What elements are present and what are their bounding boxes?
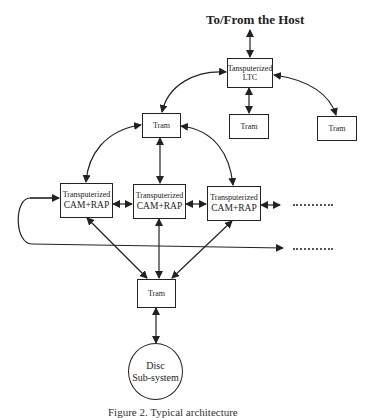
cam-node-1-line1: Transputerized — [63, 190, 111, 199]
disc-subsystem: Disc Sub-system — [128, 343, 183, 400]
cam-node-3: Transputerized CAM+RAP — [207, 186, 261, 221]
tram-right: Tram — [317, 116, 357, 141]
loop-continuation-mark — [293, 248, 333, 250]
ltc-node: Tansputerized LTC — [227, 58, 273, 88]
cam-node-1: Transputerized CAM+RAP — [60, 183, 113, 218]
tram-cam3-link — [181, 126, 233, 185]
cam-node-2-line1: Transputerized — [136, 191, 184, 200]
ltc-top-tram-link — [162, 72, 226, 112]
cam-node-1-line2: CAM+RAP — [64, 200, 109, 211]
tram-top: Tram — [142, 113, 181, 138]
tram-bottom-label: Tram — [148, 289, 165, 298]
cam-node-3-line2: CAM+RAP — [211, 203, 256, 214]
ltc-line2: LTC — [243, 73, 257, 82]
figure-caption: Figure 2. Typical architecture — [108, 406, 238, 418]
tram-cam1-link — [86, 125, 141, 182]
ltc-right-tram-link — [274, 75, 336, 115]
ltc-line1: Tansputerized — [228, 64, 273, 73]
host-label: To/From the Host — [206, 12, 304, 28]
cam-node-3-line1: Transputerized — [210, 193, 258, 202]
tram-right-label: Tram — [328, 124, 345, 133]
cam1-bottom-tram-link — [87, 218, 147, 278]
disc-line1: Disc — [146, 360, 164, 372]
tram-top-label: Tram — [153, 121, 170, 130]
tram-under-ltc-label: Tram — [240, 122, 257, 131]
row-continuation-mark — [293, 204, 333, 206]
cam-node-2: Transputerized CAM+RAP — [133, 184, 186, 219]
disc-line2: Sub-system — [132, 372, 179, 384]
tram-under-ltc: Tram — [229, 114, 269, 139]
tram-bottom: Tram — [137, 279, 176, 308]
cam3-bottom-tram-link — [172, 221, 232, 278]
cam-node-2-line2: CAM+RAP — [137, 201, 182, 212]
